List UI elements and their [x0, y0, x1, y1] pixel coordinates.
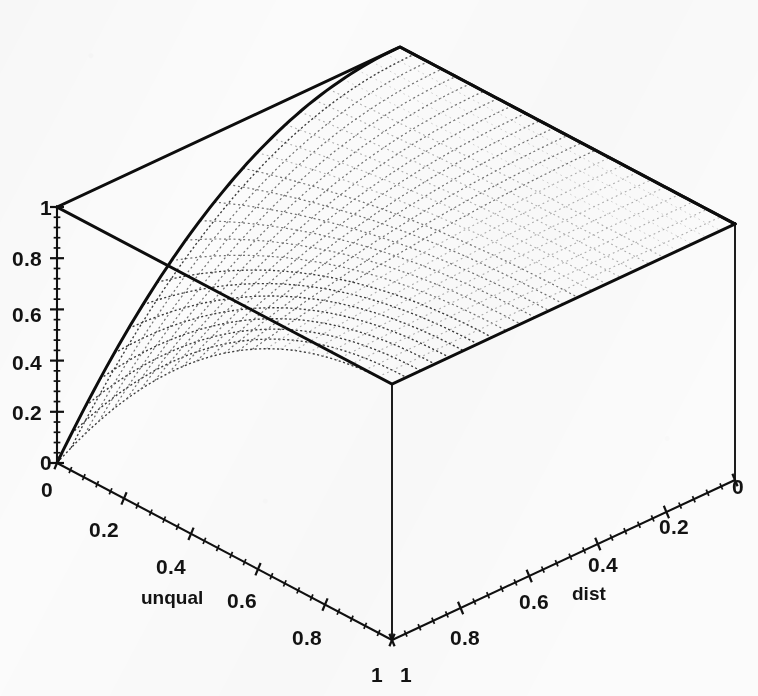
- z-axis-ticklabel: 0.4: [12, 351, 42, 374]
- plot-background: [0, 0, 758, 696]
- dist-axis-ticklabel: 0.4: [588, 553, 618, 576]
- dist-axis-ticklabel: 0.8: [450, 626, 480, 649]
- surface-plot-svg: 10.80.60.40.2000.20.40.60.8100.20.40.60.…: [0, 0, 758, 696]
- dist-axis-ticklabel: 0: [732, 475, 744, 498]
- dist-axis-ticklabel: 0.2: [659, 515, 689, 538]
- axis-title-dist: dist: [572, 583, 606, 604]
- unqual-axis-ticklabel: 0.4: [156, 555, 186, 578]
- z-axis-ticklabel: 0.6: [12, 303, 42, 326]
- unqual-axis-ticklabel: 1: [371, 663, 383, 686]
- figure-canvas: 10.80.60.40.2000.20.40.60.8100.20.40.60.…: [0, 0, 758, 696]
- z-axis-ticklabel: 0.8: [12, 247, 42, 270]
- unqual-axis-ticklabel: 0.2: [89, 518, 119, 541]
- z-axis-ticklabel: 0.2: [12, 401, 42, 424]
- unqual-axis-ticklabel: 0.8: [292, 626, 322, 649]
- z-axis-ticklabel: 0: [40, 451, 52, 474]
- z-axis-ticklabel: 1: [40, 196, 52, 219]
- unqual-axis-ticklabel: 0: [41, 478, 53, 501]
- axis-title-unqual: unqual: [141, 587, 203, 608]
- dist-axis-ticklabel: 1: [400, 663, 412, 686]
- dist-axis-ticklabel: 0.6: [519, 590, 549, 613]
- unqual-axis-ticklabel: 0.6: [227, 589, 257, 612]
